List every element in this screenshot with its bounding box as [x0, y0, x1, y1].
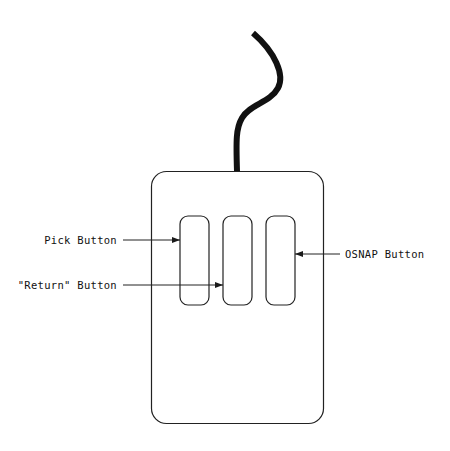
osnap-button-shape[interactable] [266, 216, 295, 305]
diagram-canvas: Pick Button "Return" Button OSNAP Button [0, 0, 450, 451]
mouse-diagram: Pick Button "Return" Button OSNAP Button [0, 0, 450, 451]
mouse-body [152, 172, 324, 424]
pick-button-shape[interactable] [180, 216, 209, 305]
return-button-label: "Return" Button [18, 279, 117, 291]
return-button-shape[interactable] [223, 216, 252, 305]
osnap-button-label: OSNAP Button [345, 248, 424, 260]
pick-button-label: Pick Button [44, 234, 117, 246]
mouse-cable [237, 33, 281, 171]
